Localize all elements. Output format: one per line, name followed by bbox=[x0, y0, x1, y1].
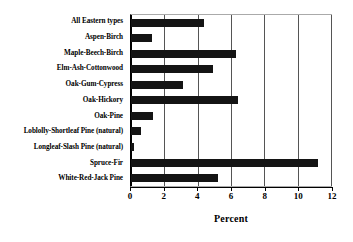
y-axis-label: Oak-Pine bbox=[94, 113, 123, 120]
bar bbox=[131, 112, 153, 120]
x-tick-label: 8 bbox=[262, 192, 267, 201]
y-axis-label: Spruce-Fir bbox=[90, 160, 123, 167]
bar bbox=[131, 96, 238, 104]
bar-row bbox=[131, 79, 331, 90]
plot-area bbox=[130, 14, 332, 187]
bar-row bbox=[131, 142, 331, 153]
bar-row bbox=[131, 33, 331, 44]
bar-row bbox=[131, 173, 331, 184]
x-axis-title: Percent bbox=[130, 213, 332, 224]
x-tick-label: 0 bbox=[128, 192, 133, 201]
bar-row bbox=[131, 126, 331, 137]
y-axis-label: Aspen-Birch bbox=[85, 34, 123, 41]
y-axis-label: Loblolly-Shortleaf Pine (natural) bbox=[24, 128, 123, 135]
x-tick-label: 10 bbox=[294, 192, 303, 201]
bar bbox=[131, 65, 213, 73]
bar bbox=[131, 159, 318, 167]
x-axis-tick-labels: 024681012 bbox=[130, 192, 332, 206]
y-axis-label: All Eastern types bbox=[71, 18, 123, 25]
x-tick-label: 6 bbox=[229, 192, 234, 201]
bar-chart: All Eastern typesAspen-BirchMaple-Beech-… bbox=[0, 0, 353, 242]
bar-row bbox=[131, 95, 331, 106]
x-tick-label: 12 bbox=[328, 192, 337, 201]
bar bbox=[131, 127, 141, 135]
bar bbox=[131, 143, 134, 151]
bar-series bbox=[131, 15, 331, 186]
bar bbox=[131, 174, 218, 182]
y-axis-label: Oak-Hickory bbox=[83, 97, 123, 104]
bar-row bbox=[131, 157, 331, 168]
y-axis-label: Longleaf-Slash Pine (natural) bbox=[34, 144, 123, 151]
bar-row bbox=[131, 48, 331, 59]
bar bbox=[131, 81, 183, 89]
y-axis-label: White-Red-Jack Pine bbox=[58, 175, 123, 182]
bar bbox=[131, 50, 236, 58]
y-axis-label: Maple-Beech-Birch bbox=[64, 50, 123, 57]
bar bbox=[131, 34, 152, 42]
bar-row bbox=[131, 64, 331, 75]
y-axis-label: Oak-Gum-Cypress bbox=[66, 81, 123, 88]
x-tick-label: 4 bbox=[195, 192, 200, 201]
y-axis-label: Elm-Ash-Cottonwood bbox=[57, 65, 123, 72]
bar bbox=[131, 19, 204, 27]
x-tick-label: 2 bbox=[161, 192, 166, 201]
bar-row bbox=[131, 110, 331, 121]
bar-row bbox=[131, 17, 331, 28]
y-axis-category-labels: All Eastern typesAspen-BirchMaple-Beech-… bbox=[0, 14, 127, 187]
gridline bbox=[331, 15, 332, 186]
